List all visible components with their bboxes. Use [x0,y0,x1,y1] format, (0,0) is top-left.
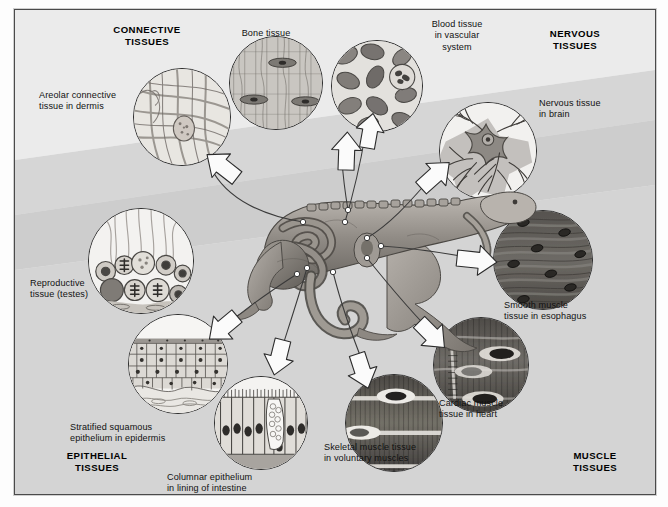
section-header-epithelial: EPITHELIAL TISSUES [37,450,157,474]
figure-page: CONNECTIVE TISSUES NERVOUS TISSUES EPITH… [0,0,668,507]
label-stratified-squamous-epithelium: Stratified squamous epithelium in epider… [70,422,165,445]
label-bone-tissue: Bone tissue [211,28,321,39]
label-columnar-epithelium: Columnar epithelium in lining of intesti… [167,472,252,495]
label-blood-tissue: Blood tissue in vascular system [398,19,516,53]
figure-frame: CONNECTIVE TISSUES NERVOUS TISSUES EPITH… [14,9,656,495]
label-skeletal-muscle-tissue: Skeletal muscle tissue in voluntary musc… [324,442,416,465]
label-smooth-muscle-tissue: Smooth muscle tissue in esophagus [504,300,586,323]
section-header-connective: CONNECTIVE TISSUES [77,24,217,48]
section-header-muscle: MUSCLE TISSUES [535,450,655,474]
label-cardiac-muscle-tissue: Cardiac muscle tissue in heart [439,398,503,421]
label-areolar-connective-tissue: Areolar connective tissue in dermis [39,90,116,113]
label-nervous-tissue: Nervous tissue in brain [539,98,601,121]
section-header-nervous: NERVOUS TISSUES [515,28,635,52]
label-reproductive-tissue: Reproductive tissue (testes) [30,278,88,301]
